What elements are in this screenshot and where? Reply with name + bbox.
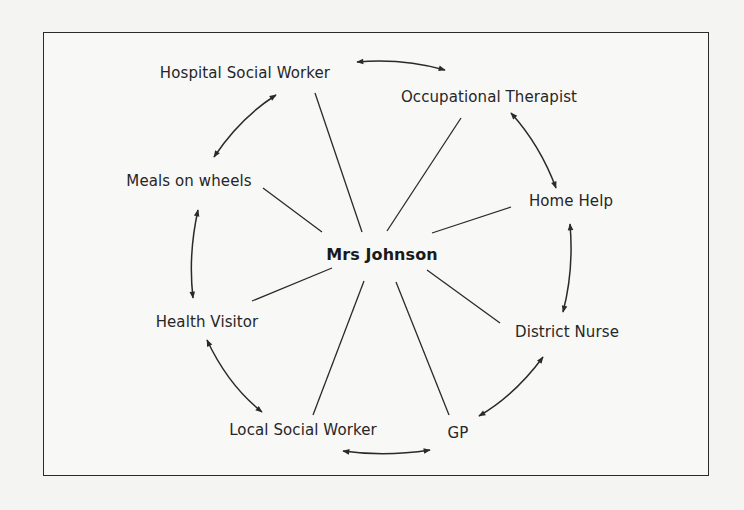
spoke-gp [396, 282, 449, 415]
arrow-hv-lsw [207, 340, 262, 412]
arrow-dn-gp [479, 357, 543, 416]
node-gp: GP [448, 424, 469, 442]
node-meals-on-wheels: Meals on wheels [126, 172, 251, 190]
arrow-lsw-gp [343, 450, 430, 454]
spoke-local-social-worker [313, 281, 364, 415]
node-local-social-worker: Local Social Worker [229, 421, 377, 439]
center-node-mrs-johnson: Mrs Johnson [326, 245, 438, 264]
node-district-nurse: District Nurse [515, 323, 619, 341]
spoke-hospital-social-worker [315, 93, 362, 232]
arrow-hh-dn [563, 224, 571, 312]
spoke-meals-on-wheels [263, 188, 322, 232]
arrow-ot-hh [511, 113, 556, 188]
spoke-occupational-therapist [387, 118, 461, 231]
arrow-hsw-ot [357, 61, 445, 70]
arrow-mow-hv [191, 210, 198, 298]
node-health-visitor: Health Visitor [156, 313, 259, 331]
node-home-help: Home Help [529, 192, 613, 210]
spoke-district-nurse [427, 270, 500, 323]
spoke-home-help [432, 207, 511, 233]
node-hospital-social-worker: Hospital Social Worker [160, 64, 330, 82]
arrow-hsw-mow [214, 95, 276, 157]
spoke-health-visitor [252, 268, 332, 301]
node-occupational-therapist: Occupational Therapist [401, 88, 577, 106]
